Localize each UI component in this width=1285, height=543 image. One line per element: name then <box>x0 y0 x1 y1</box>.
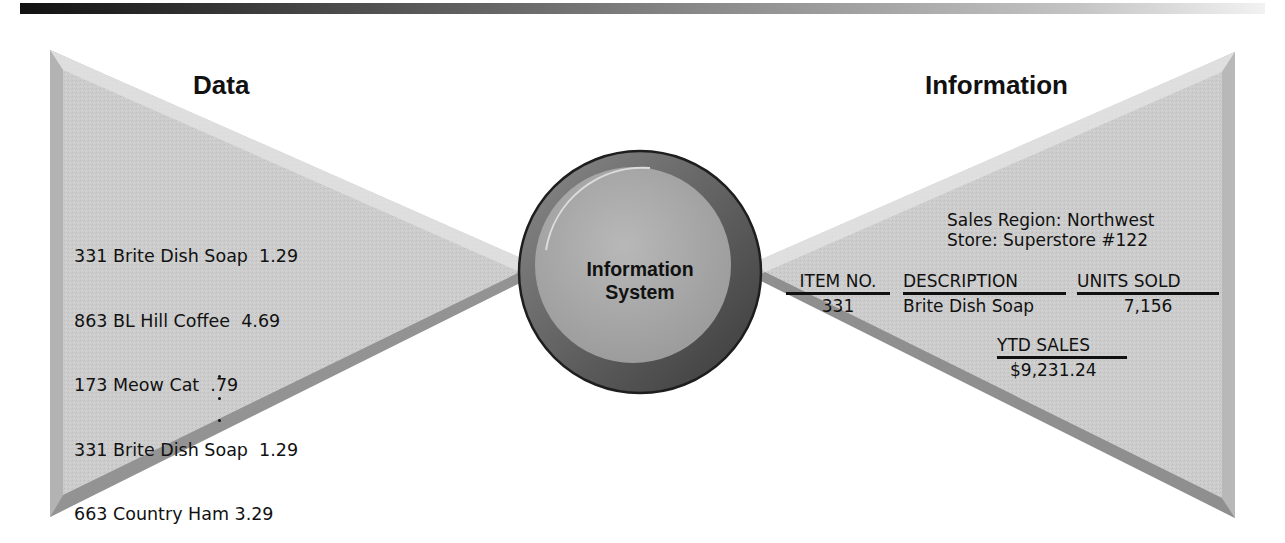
data-heading: Data <box>193 70 249 101</box>
column-description: DESCRIPTION Brite Dish Soap <box>903 271 1066 317</box>
ytd-sales: YTD SALES $9,231.24 <box>997 335 1127 381</box>
ellipsis-dot <box>218 375 221 378</box>
column-header: DESCRIPTION <box>903 271 1066 295</box>
data-record: 331 Brite Dish Soap 1.29 <box>74 246 298 268</box>
store-name: Store: Superstore #122 <box>947 230 1154 250</box>
continuation-ellipsis <box>218 375 226 441</box>
ellipsis-dot <box>218 419 221 422</box>
label-line-1: Information <box>560 258 720 281</box>
ellipsis-dot <box>218 397 221 400</box>
data-record: 663 Country Ham 3.29 <box>74 504 298 526</box>
information-heading: Information <box>925 70 1068 101</box>
data-record: 173 Meow Cat .79 <box>74 375 298 397</box>
report-header: Sales Region: Northwest Store: Superstor… <box>947 210 1154 250</box>
column-item-no: ITEM NO. 331 <box>786 271 890 317</box>
data-record: 331 Brite Dish Soap 1.29 <box>74 440 298 462</box>
data-record: 863 BL Hill Coffee 4.69 <box>74 311 298 333</box>
column-header: ITEM NO. <box>786 271 890 295</box>
label-line-2: System <box>560 281 720 304</box>
raw-data-list: 331 Brite Dish Soap 1.29 863 BL Hill Cof… <box>74 203 298 543</box>
column-value: 7,156 <box>1077 295 1219 317</box>
sales-region: Sales Region: Northwest <box>947 210 1154 230</box>
column-units-sold: UNITS SOLD 7,156 <box>1077 271 1219 317</box>
column-value: Brite Dish Soap <box>903 295 1066 317</box>
column-value: 331 <box>786 295 890 317</box>
ytd-sales-value: $9,231.24 <box>997 359 1127 381</box>
information-system-label: Information System <box>560 258 720 304</box>
ytd-sales-header: YTD SALES <box>997 335 1127 359</box>
column-header: UNITS SOLD <box>1077 271 1219 295</box>
